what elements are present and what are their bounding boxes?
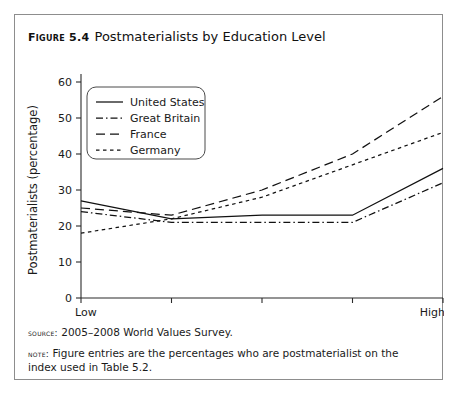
series-line-great-britain (81, 183, 443, 223)
y-tick-label: 40 (58, 148, 72, 161)
series-line-united-states (81, 168, 443, 218)
figure-notes: Source: 2005–2008 World Values Survey. N… (28, 326, 428, 381)
y-tick-label: 30 (58, 184, 72, 197)
y-tick-label: 10 (58, 256, 72, 269)
legend-label-germany: Germany (130, 144, 181, 157)
note-label: Note: (28, 349, 49, 359)
figure-container: Figure 5.4Postmaterialists by Education … (14, 14, 443, 380)
source-label: Source: (28, 328, 58, 338)
y-tick-label: 0 (65, 292, 72, 305)
y-tick-label: 60 (58, 76, 72, 89)
note-text: Figure entries are the percentages who a… (28, 347, 398, 374)
line-chart-svg: 0102030405060 Postmaterialists (percenta… (15, 41, 444, 319)
x-axis-ticks (81, 298, 443, 303)
source-text: 2005–2008 World Values Survey. (61, 326, 232, 338)
legend-label-great-britain: Great Britain (130, 112, 200, 125)
y-axis-title: Postmaterialists (percentage) (26, 105, 40, 275)
y-axis: 0102030405060 Postmaterialists (percenta… (26, 74, 81, 305)
x-tick-label-high: High (420, 306, 444, 319)
x-axis: Low High Education level (75, 298, 444, 319)
chart-plot-area: 0102030405060 Postmaterialists (percenta… (15, 41, 444, 319)
y-tick-label: 50 (58, 112, 72, 125)
chart-legend: United StatesGreat BritainFranceGermany (87, 87, 205, 159)
note-row: Note: Figure entries are the percentages… (28, 347, 428, 375)
legend-label-united-states: United States (130, 96, 205, 109)
x-tick-label-low: Low (75, 306, 97, 319)
source-row: Source: 2005–2008 World Values Survey. (28, 326, 428, 341)
y-tick-label: 20 (58, 220, 72, 233)
legend-label-france: France (130, 128, 167, 141)
y-axis-ticks: 0102030405060 (58, 76, 81, 305)
